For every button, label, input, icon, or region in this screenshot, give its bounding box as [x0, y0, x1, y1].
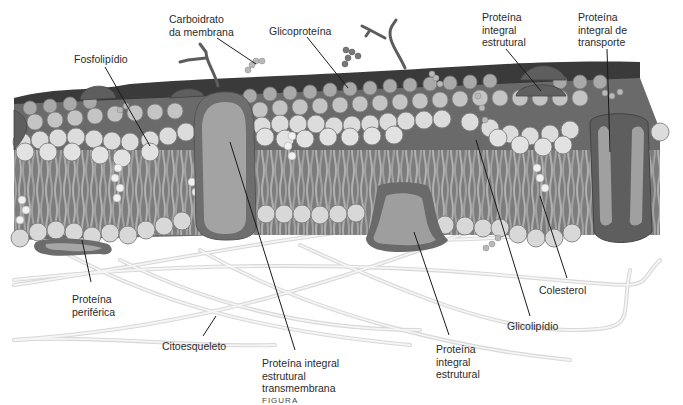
label-glycolipid: Glicolipídio	[507, 320, 558, 333]
label-phospholipid: Fosfolipídio	[74, 53, 128, 66]
label-cytoskeleton: Citoesqueleto	[162, 340, 226, 353]
label-cholesterol: Colesterol	[539, 284, 586, 297]
label-membrane-carbohydrate: Carboidrato da membrana	[169, 13, 234, 38]
transmembrane-protein	[194, 92, 256, 240]
figure-caption: FIGURA	[262, 396, 298, 405]
label-integral-structural-protein-bottom: Proteína integral estrutural	[436, 343, 480, 381]
label-transmembrane-protein: Proteína integral estrutural transmembra…	[262, 357, 339, 395]
label-integral-structural-protein-top: Proteína integral estrutural	[482, 11, 526, 49]
lipid-bilayer	[11, 58, 669, 251]
transport-protein	[590, 114, 652, 243]
label-peripheral-protein: Proteína periférica	[72, 293, 115, 318]
label-glycoprotein: Glicoproteína	[269, 25, 331, 38]
peripheral-protein	[34, 238, 112, 255]
label-integral-transport-protein: Proteína integral de transporte	[578, 11, 627, 49]
